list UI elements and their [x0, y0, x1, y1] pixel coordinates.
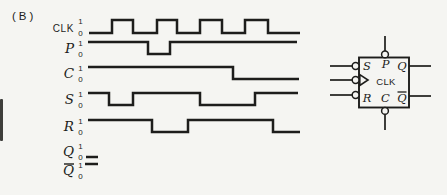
pin-label-q: Q — [397, 59, 407, 73]
signal-label-p: P — [64, 40, 75, 56]
tick-high-clk: 1 — [78, 17, 83, 26]
tick-high-c: 1 — [78, 64, 83, 73]
signal-row-q: Q10 — [63, 142, 98, 162]
tick-high-qbar: 1 — [78, 161, 83, 170]
tick-low-qbar: 0 — [78, 172, 83, 181]
signal-label-q: Q — [63, 143, 74, 159]
signal-row-clk: CLK10 — [53, 17, 300, 38]
pin-label-s: S — [363, 59, 371, 73]
tick-high-s: 1 — [78, 90, 83, 99]
waveform-c — [88, 67, 299, 79]
pin-label-r: R — [362, 91, 372, 105]
inversion-bubble-r — [352, 92, 359, 99]
tick-low-clk: 0 — [78, 29, 83, 38]
waveform-r — [88, 120, 300, 132]
tick-low-c: 0 — [78, 75, 83, 84]
flipflop-symbol: SPQCLKRCQ — [330, 36, 431, 130]
signal-label-c: C — [64, 65, 75, 81]
diagram-svg: CLK10P10C10S10R10Q10Q10 SPQCLKRCQ — [0, 0, 447, 195]
inversion-bubble-clk — [352, 77, 359, 84]
pin-label-p: P — [381, 57, 390, 71]
tick-low-p: 0 — [78, 50, 83, 59]
signal-rows: CLK10P10C10S10R10Q10Q10 — [53, 17, 300, 181]
waveform-p — [88, 42, 297, 54]
waveform-s — [88, 93, 298, 105]
tick-high-p: 1 — [78, 39, 83, 48]
signal-row-c: C10 — [64, 64, 299, 84]
signal-label-clk: CLK — [53, 23, 74, 34]
waveform-clk — [89, 20, 300, 33]
pin-label-clk: CLK — [376, 76, 396, 87]
tick-high-r: 1 — [78, 117, 83, 126]
pin-label-c: C — [381, 91, 390, 105]
signal-row-s: S10 — [65, 90, 298, 110]
tick-high-q: 1 — [78, 142, 83, 151]
inversion-bubble-s — [352, 63, 359, 70]
timing-diagram-figure: (B) CLK10P10C10S10R10Q10Q10 SPQCLKRCQ — [0, 0, 447, 195]
signal-label-r: R — [63, 118, 74, 134]
tick-low-s: 0 — [78, 101, 83, 110]
inversion-bubble-c — [382, 108, 389, 115]
signal-label-s: S — [65, 91, 74, 107]
signal-row-p: P10 — [64, 39, 297, 59]
signal-row-qbar: Q10 — [63, 161, 98, 181]
signal-row-r: R10 — [63, 117, 300, 137]
clock-edge-triangle — [360, 75, 368, 86]
tick-low-r: 0 — [78, 128, 83, 137]
